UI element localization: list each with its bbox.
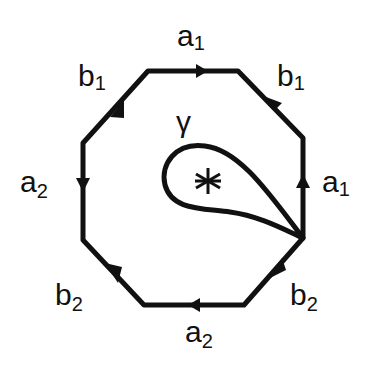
arrow-top-icon: [196, 64, 208, 78]
edge-arrows: [76, 64, 310, 312]
arrow-bottom-icon: [188, 298, 200, 312]
octagon-diagram: γ a1 b1 a1 b2 a2 b2 a2 b1: [0, 0, 367, 376]
arrow-left-icon: [76, 178, 90, 192]
arrow-right-icon: [296, 174, 310, 188]
asterisk-icon: [195, 168, 221, 194]
edge-label-top: a1: [177, 19, 205, 54]
edge-label-right: a1: [322, 165, 350, 200]
edge-label-lower-right: b2: [290, 278, 318, 315]
gamma-loop: [164, 146, 303, 238]
edge-label-lower-left: b2: [55, 278, 83, 315]
edge-label-upper-left: b1: [78, 59, 106, 94]
edge-label-upper-right: b1: [277, 59, 305, 94]
edge-label-left: a2: [20, 165, 48, 202]
edge-label-bottom: a2: [185, 315, 213, 352]
gamma-label: γ: [176, 105, 191, 138]
